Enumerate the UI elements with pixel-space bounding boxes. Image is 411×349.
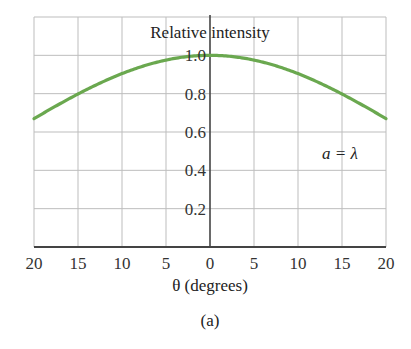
chart-title: Relative intensity (150, 23, 270, 42)
x-axis-label: θ (degrees) (172, 276, 248, 295)
y-tick-label: 0.6 (185, 123, 206, 142)
y-tick-labels: 0.20.40.60.81.0 (185, 46, 207, 218)
axes (34, 15, 386, 247)
intensity-chart: 0.20.40.60.81.0 201510505101520 Relative… (0, 0, 411, 349)
x-tick-label: 5 (162, 254, 171, 273)
x-tick-label: 0 (206, 254, 215, 273)
x-tick-label: 20 (378, 254, 395, 273)
x-tick-label: 15 (70, 254, 87, 273)
y-tick-label: 0.8 (185, 85, 206, 104)
annotation-a-equals-lambda: a = λ (322, 144, 358, 163)
x-tick-label: 5 (250, 254, 259, 273)
x-tick-labels: 201510505101520 (26, 254, 395, 273)
x-tick-label: 15 (334, 254, 351, 273)
x-tick-label: 20 (26, 254, 43, 273)
figure-caption: (a) (201, 311, 220, 330)
y-tick-label: 1.0 (185, 46, 206, 65)
y-tick-label: 0.4 (185, 161, 207, 180)
x-tick-label: 10 (114, 254, 131, 273)
y-tick-label: 0.2 (185, 200, 206, 219)
x-tick-label: 10 (290, 254, 307, 273)
